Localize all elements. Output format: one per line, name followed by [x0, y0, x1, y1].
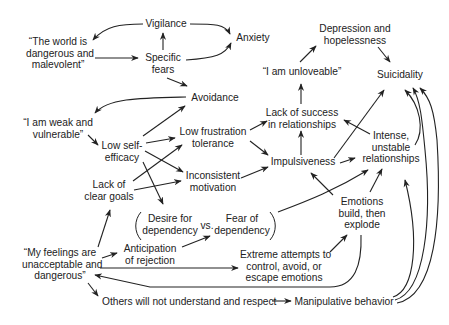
edge-emotions-intense	[370, 169, 382, 192]
node-unloveable: “I am unloveable”	[262, 66, 342, 78]
node-emotions-build-explode: Emotions build, then explode	[334, 196, 390, 231]
node-suicidality: Suicidality	[372, 69, 428, 81]
node-feelings-unacceptable: “My feelings are unacceptable and danger…	[22, 247, 98, 282]
edge-low-self-efficacy-low-frustration	[146, 138, 175, 143]
edge-specific-fears-avoidance	[167, 78, 187, 86]
edge-feelings-lack-goals	[98, 210, 110, 247]
edge-inconsistent-impulsiveness	[241, 167, 268, 178]
node-lack-success-relationships: Lack of success in relationships	[265, 107, 339, 130]
right-bracket	[270, 212, 275, 240]
edge-specific-fears-anxiety	[186, 43, 231, 60]
edge-vigilance-anxiety	[190, 24, 230, 34]
node-lack-clear-goals: Lack of clear goals	[84, 179, 134, 202]
edge-manipulative-suicidality-2	[397, 88, 438, 303]
node-impulsiveness: Impulsiveness	[270, 156, 336, 168]
node-others-not-understand: Others will not understand and respect	[102, 296, 270, 308]
edge-unloveable-depression	[300, 46, 316, 62]
edge-lack-goals-inconsistent	[134, 181, 181, 190]
edge-low-self-efficacy-inconsistent	[145, 151, 183, 172]
cognitive-behavioral-model-diagram: “The world is dangerous and malevolent” …	[0, 0, 449, 325]
node-inconsistent-motivation: Inconsistent motivation	[183, 170, 243, 193]
edge-depression-suicidality	[378, 47, 390, 62]
edge-anticipation-fear-dependency	[182, 236, 210, 247]
node-intense-unstable-relationships: Intense, unstable relationships	[358, 130, 424, 165]
left-bracket	[136, 212, 141, 240]
node-desire-dependency: Desire for dependency	[142, 213, 198, 236]
node-weak-vulnerable: “I am weak and vulnerable”	[22, 117, 94, 140]
node-anticipation-rejection: Anticipation of rejection	[120, 243, 180, 266]
edge-low-self-efficacy-desire	[143, 162, 163, 204]
node-vs: vs.	[199, 220, 215, 232]
edge-feelings-anticipation	[102, 253, 117, 258]
node-world-dangerous: “The world is dangerous and malevolent”	[26, 36, 90, 71]
node-extreme-attempts: Extreme attempts to control, avoid, or e…	[240, 249, 328, 284]
node-specific-fears: Specific fears	[140, 52, 186, 75]
node-vigilance: Vigilance	[143, 18, 189, 30]
node-manipulative-behavior: Manipulative behavior	[294, 296, 394, 308]
edge-feelings-others	[88, 283, 98, 296]
edge-low-frustration-impulsiveness	[250, 141, 268, 155]
edge-manipulative-intense	[393, 180, 414, 297]
edge-avoidance-weak	[95, 97, 186, 113]
edge-vigilance-world	[93, 24, 143, 40]
node-fear-dependency: Fear of dependency	[214, 213, 270, 236]
node-anxiety: Anxiety	[233, 32, 273, 44]
node-low-frustration-tolerance: Low frustration tolerance	[177, 126, 249, 149]
edge-emotions-impulsiveness	[311, 173, 333, 195]
node-avoidance: Avoidance	[188, 92, 242, 104]
edge-impulsiveness-intense	[340, 158, 355, 163]
node-depression: Depression and hopelessness	[315, 23, 395, 46]
edge-extreme-emotions	[330, 235, 347, 252]
node-low-self-efficacy: Low self- efficacy	[100, 140, 144, 163]
